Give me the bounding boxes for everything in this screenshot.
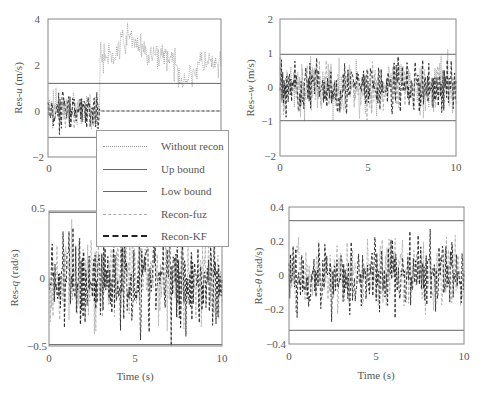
br-ylabel: Res-θ (rad/s) <box>252 247 265 304</box>
panel-res-w: 2 1 0 −1 −2 0 5 10 Res--w (m/s) <box>244 13 462 173</box>
tl-ytick: 4 <box>35 13 41 25</box>
bl-xtick: 0 <box>46 352 52 364</box>
tl-ytick: −2 <box>32 151 44 163</box>
bl-ytick: 0 <box>40 272 46 284</box>
legend-item-low-bound: Low bound <box>103 184 211 198</box>
tr-ytick: 1 <box>268 47 274 59</box>
tr-xtick: 5 <box>365 161 371 173</box>
tr-ytick: 2 <box>268 13 274 25</box>
legend-item-up-bound: Up bound <box>103 162 205 176</box>
res-theta-series <box>289 221 464 331</box>
br-ytick: −0.2 <box>264 303 284 315</box>
legend-item-recon-fuz: Recon-fuz <box>103 207 207 221</box>
solid-line-icon <box>103 191 147 192</box>
bl-ytick: −0.5 <box>27 340 47 352</box>
res-u-series <box>48 23 221 138</box>
tl-ylabel: Res-u (m/s) <box>12 62 25 114</box>
tl-ytick: 2 <box>35 59 41 71</box>
br-xlabel: Time (s) <box>357 369 395 382</box>
bl-ytick: 0.5 <box>31 202 45 214</box>
dashed-line-icon <box>103 235 147 237</box>
bl-xlabel: Time (s) <box>116 370 154 383</box>
chart-canvas: 4 2 0 −2 0 Res-u (m/s) 2 1 0 −1 −2 0 5 1… <box>0 0 483 394</box>
br-ytick: −0.4 <box>266 338 286 350</box>
tr-xtick: 0 <box>277 161 283 173</box>
res-w-series <box>280 49 456 121</box>
tr-ylabel: Res--w (m/s) <box>244 59 257 116</box>
dotted-line-icon <box>103 146 147 147</box>
br-ytick: 0 <box>279 269 285 281</box>
br-ytick: 0.4 <box>270 201 284 213</box>
bl-ylabel: Res-q (rad/s) <box>8 249 21 306</box>
tr-ytick: −1 <box>261 115 273 127</box>
tr-ytick: −2 <box>264 150 276 162</box>
tr-ytick: 0 <box>268 81 274 93</box>
tl-ytick: 0 <box>35 105 41 117</box>
bl-xtick: 5 <box>132 352 138 364</box>
tl-xtick: 0 <box>46 162 52 174</box>
solid-line-icon <box>103 169 147 170</box>
dashed-line-icon <box>103 214 147 215</box>
bl-xtick: 10 <box>217 352 229 364</box>
br-xtick: 0 <box>286 350 292 362</box>
legend: Without recon Up bound Low bound Recon-f… <box>96 130 229 247</box>
legend-item-without-recon: Without recon <box>103 139 224 153</box>
tr-xtick: 10 <box>451 161 463 173</box>
panel-res-theta: 0.4 0.2 0 −0.2 −0.4 0 5 10 Time (s) Res-… <box>252 201 470 382</box>
br-ytick: 0.2 <box>270 235 284 247</box>
br-xtick: 5 <box>373 350 379 362</box>
br-xtick: 10 <box>459 350 471 362</box>
legend-item-recon-kf: Recon-KF <box>103 229 207 243</box>
